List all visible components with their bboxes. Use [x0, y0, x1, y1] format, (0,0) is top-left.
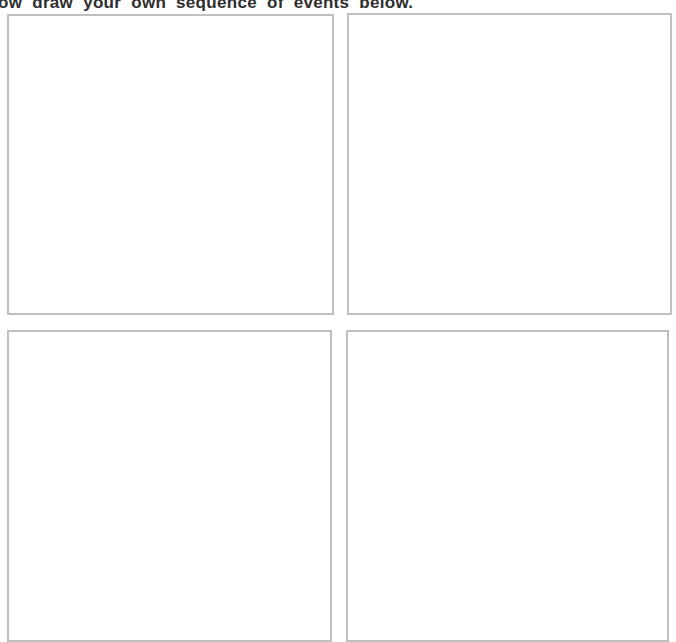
drawing-panel-top-left	[7, 14, 334, 315]
instruction-text: ow draw your own sequence of events belo…	[0, 0, 413, 13]
drawing-panel-top-right	[347, 13, 672, 315]
drawing-panel-bottom-left	[7, 330, 332, 642]
drawing-panel-bottom-right	[346, 330, 669, 642]
